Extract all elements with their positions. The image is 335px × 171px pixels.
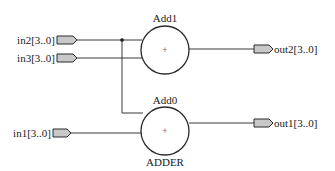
adder-type-label: ADDER <box>146 156 185 168</box>
adder-add1[interactable]: Add1 + <box>141 12 189 74</box>
output-label-out2: out2[3..0] <box>274 43 317 55</box>
adder-name-add1: Add1 <box>153 12 177 24</box>
plus-icon: + <box>162 126 167 136</box>
output-label-out1: out1[3..0] <box>274 117 317 129</box>
output-port-icon[interactable] <box>254 45 273 53</box>
input-pin-in1[interactable]: in1[3..0] <box>13 127 71 139</box>
output-port-icon[interactable] <box>254 119 273 127</box>
input-port-icon[interactable] <box>53 129 71 137</box>
wire-in2-add0 <box>122 40 143 113</box>
output-pin-out1[interactable]: out1[3..0] <box>254 117 317 129</box>
input-pin-in3[interactable]: in3[3..0] <box>17 52 77 64</box>
output-pin-out2[interactable]: out2[3..0] <box>254 43 317 55</box>
junction-dot <box>120 38 124 42</box>
input-port-icon[interactable] <box>57 54 77 62</box>
input-label-in1: in1[3..0] <box>13 127 51 139</box>
input-port-icon[interactable] <box>57 36 77 44</box>
input-label-in2: in2[3..0] <box>17 34 55 46</box>
plus-icon: + <box>162 45 167 55</box>
input-label-in3: in3[3..0] <box>17 52 55 64</box>
adder-add0[interactable]: Add0 + ADDER <box>141 94 189 168</box>
input-pin-in2[interactable]: in2[3..0] <box>17 34 77 46</box>
schematic-canvas: in2[3..0] in3[3..0] in1[3..0] Add1 + Add… <box>0 0 335 171</box>
adder-name-add0: Add0 <box>153 94 178 106</box>
